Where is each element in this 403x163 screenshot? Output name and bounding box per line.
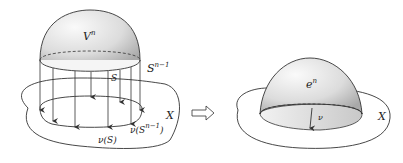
space-x-label-left: X (166, 110, 174, 121)
image-sphere-sup: n−1 (145, 122, 160, 130)
sphere-label: Sn−1 (147, 62, 169, 74)
image-region-label: ν(S) (98, 136, 117, 145)
sphere-label-base: S (147, 62, 155, 75)
attaching-cell-diagram: Vn Sn−1 S X ν(S) ν(Sn−1) en ν X (0, 0, 403, 163)
implies-arrow-icon (192, 106, 214, 120)
cell-label: en (306, 78, 317, 90)
sphere-label-sup: n−1 (155, 61, 170, 69)
space-x-label-right: X (378, 111, 386, 122)
map-nu-label: ν (318, 114, 323, 122)
disk-label-sup: n (91, 29, 96, 37)
disk-label-base: V (83, 30, 91, 43)
cell-label-sup: n (313, 77, 318, 85)
disk-label: Vn (83, 30, 95, 42)
region-s-label: S (111, 74, 117, 83)
image-sphere-post: ) (160, 125, 164, 135)
image-sphere-pre: ν(S (130, 125, 145, 135)
image-sphere-label: ν(Sn−1) (130, 123, 164, 135)
diagram-graphics (0, 0, 403, 163)
